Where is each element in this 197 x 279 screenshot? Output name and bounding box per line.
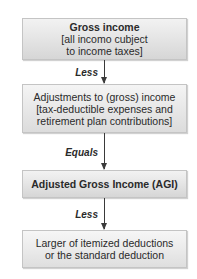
agi-box: Adjusted Gross Income (AGI) [22, 170, 187, 198]
down-arrow-icon [104, 198, 105, 229]
adjustments-line-2: [tax-deductible expenses and [36, 103, 173, 115]
agi-title: Adjusted Gross Income (AGI) [31, 178, 177, 190]
adjustments-line-3: retirement plan contributions] [37, 115, 172, 127]
gross-income-box: Gross income [all incomo cubject to inco… [22, 18, 187, 60]
adjustments-box: Adjustments to (gross) income [tax-deduc… [22, 84, 187, 133]
connector-label-less: Less [18, 67, 98, 78]
connector-label-less: Less [18, 209, 98, 220]
gross-income-desc-line-1: [all incomo cubject [61, 33, 147, 45]
deductions-line-2: or the standard deduction [45, 249, 164, 261]
connector-label-equals: Equals [18, 147, 98, 158]
deductions-line-1: Larger of itemized deductions [36, 237, 174, 249]
deductions-box: Larger of itemized deductions or the sta… [22, 230, 187, 268]
gross-income-desc-line-2: to income taxes] [66, 45, 142, 57]
adjustments-line-1: Adjustments to (gross) income [34, 91, 176, 103]
down-arrow-icon [104, 133, 105, 169]
gross-income-title: Gross income [69, 21, 139, 33]
down-arrow-icon [104, 60, 105, 83]
